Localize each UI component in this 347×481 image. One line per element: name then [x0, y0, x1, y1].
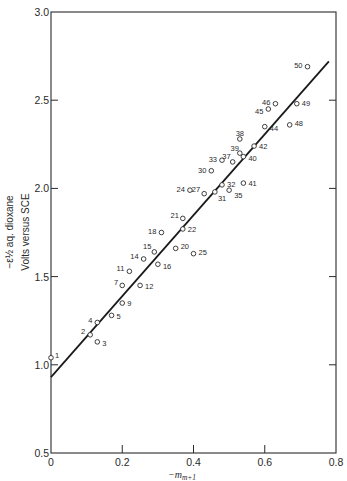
data-point: 37: [222, 152, 235, 164]
open-circle-marker-icon: [230, 160, 235, 165]
open-circle-marker-icon: [295, 101, 300, 106]
data-point: 50: [294, 61, 310, 70]
open-circle-marker-icon: [152, 250, 157, 255]
data-point-label: 49: [302, 99, 310, 108]
data-point-label: 4: [88, 316, 92, 325]
open-circle-marker-icon: [49, 355, 54, 360]
data-point: 15: [143, 242, 157, 254]
data-point-label: 38: [236, 129, 244, 138]
open-circle-marker-icon: [305, 64, 310, 69]
data-point: 49: [295, 99, 311, 108]
data-point-label: 27: [192, 185, 200, 194]
data-point-label: 1: [55, 351, 59, 360]
data-point: 25: [191, 248, 207, 257]
x-tick-label: 0.8: [329, 456, 344, 468]
open-circle-marker-icon: [141, 257, 146, 262]
data-point-label: 48: [295, 119, 303, 128]
open-circle-marker-icon: [138, 283, 143, 288]
data-point-label: 45: [255, 107, 263, 116]
data-point-label: 5: [117, 312, 121, 321]
open-circle-marker-icon: [127, 269, 132, 274]
x-tick-label: 0.6: [257, 456, 272, 468]
y-axis-title-line2: Volts versus SCE: [20, 193, 31, 271]
open-circle-marker-icon: [241, 181, 246, 186]
data-point: 46: [262, 98, 278, 107]
data-point-label: 9: [127, 299, 131, 308]
open-circle-marker-icon: [120, 301, 125, 306]
data-point: 45: [255, 107, 271, 116]
y-axis-title-line1: −ε½ aq. dioxane: [4, 195, 15, 269]
y-axis-title-2: Volts versus SCE: [20, 193, 31, 271]
data-point: 24: [177, 185, 193, 194]
y-tick-label: 2.5: [34, 94, 49, 106]
x-axis: 00.20.40.60.8: [48, 445, 343, 468]
data-points: 1234579111214151618202122242527303132333…: [49, 61, 310, 360]
data-point: 12: [138, 282, 154, 291]
y-tick-label: 1.5: [34, 271, 49, 283]
y-tick-label: 3.0: [34, 6, 49, 18]
data-point: 42: [252, 142, 268, 151]
open-circle-marker-icon: [181, 216, 186, 221]
data-point: 48: [287, 119, 303, 128]
data-point-label: 7: [114, 278, 118, 287]
x-axis-title: −mm+1: [168, 469, 196, 481]
data-point-label: 31: [218, 194, 226, 203]
data-point: 14: [130, 252, 146, 261]
data-point: 22: [181, 225, 197, 234]
data-point-label: 3: [102, 339, 106, 348]
open-circle-marker-icon: [220, 183, 225, 188]
open-circle-marker-icon: [88, 333, 93, 338]
data-point-label: 30: [198, 166, 206, 175]
data-point: 1: [49, 351, 59, 360]
scatter-chart: 0.51.01.52.02.53.0 00.20.40.60.8 1234579…: [0, 0, 347, 481]
data-point-label: 35: [234, 191, 242, 200]
open-circle-marker-icon: [241, 154, 246, 159]
data-point-label: 14: [130, 252, 138, 261]
x-axis-title-main: −m: [168, 469, 182, 480]
data-point-label: 40: [248, 154, 256, 163]
data-point: 31: [213, 190, 227, 204]
open-circle-marker-icon: [287, 123, 292, 128]
data-point-label: 12: [145, 282, 153, 291]
data-point-label: 46: [262, 98, 270, 107]
data-point-label: 16: [163, 262, 171, 271]
regression-line: [51, 61, 329, 377]
open-circle-marker-icon: [159, 230, 164, 235]
data-point-label: 15: [143, 242, 151, 251]
y-tick-label: 2.0: [34, 182, 49, 194]
data-point: 38: [236, 129, 244, 142]
open-circle-marker-icon: [213, 190, 218, 195]
open-circle-marker-icon: [95, 340, 100, 345]
open-circle-marker-icon: [120, 283, 125, 288]
open-circle-marker-icon: [262, 124, 267, 129]
open-circle-marker-icon: [95, 320, 100, 325]
data-point: 18: [148, 227, 164, 236]
data-point-label: 24: [177, 185, 185, 194]
open-circle-marker-icon: [273, 101, 278, 106]
data-point: 16: [156, 262, 172, 271]
data-point: 21: [170, 211, 185, 221]
data-point: 30: [198, 166, 214, 175]
data-point-label: 44: [270, 124, 278, 133]
data-point: 7: [114, 278, 124, 288]
data-point-label: 33: [209, 155, 217, 164]
data-point-label: 39: [230, 144, 238, 153]
fit-line: [51, 61, 329, 377]
y-tick-label: 0.5: [34, 447, 49, 459]
data-point-label: 18: [148, 227, 156, 236]
open-circle-marker-icon: [181, 227, 186, 232]
data-point-label: 22: [188, 225, 196, 234]
data-point: 3: [95, 339, 106, 348]
x-tick-label: 0.4: [186, 456, 201, 468]
open-circle-marker-icon: [173, 246, 178, 251]
data-point-label: 2: [81, 327, 85, 336]
data-point: 27: [192, 185, 207, 196]
data-point-label: 25: [199, 248, 207, 257]
open-circle-marker-icon: [156, 262, 161, 267]
data-point: 4: [88, 316, 99, 325]
data-point: 5: [109, 312, 120, 321]
open-circle-marker-icon: [202, 191, 207, 196]
open-circle-marker-icon: [109, 313, 114, 318]
y-axis: 0.51.01.52.02.53.0: [34, 6, 336, 459]
chart-canvas: 0.51.01.52.02.53.0 00.20.40.60.8 1234579…: [0, 0, 347, 481]
